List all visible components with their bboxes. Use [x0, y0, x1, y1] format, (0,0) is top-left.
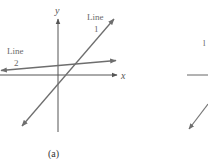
- line-2-label-word: Line: [7, 46, 24, 56]
- line-2-label-number: 2: [14, 58, 19, 68]
- line-1-label-number: 1: [94, 24, 99, 34]
- panel-a: y x Line 1 Line 2 (a): [0, 5, 126, 159]
- line-1: [22, 19, 114, 126]
- y-axis-label: y: [54, 5, 60, 16]
- line-1-label-word: Line: [87, 12, 104, 22]
- panel-a-caption: (a): [48, 148, 59, 159]
- panel-b-label-fragment: l: [203, 38, 206, 48]
- x-axis-label: x: [120, 70, 126, 81]
- panel-b-line-fragment: [189, 104, 208, 129]
- figure-canvas: y x Line 1 Line 2 (a) l: [0, 0, 208, 159]
- panel-b-partial: l: [187, 38, 208, 129]
